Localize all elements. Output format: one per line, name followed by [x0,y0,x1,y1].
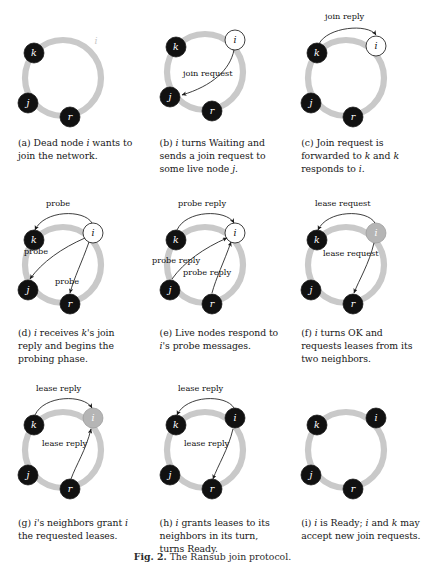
node-k-label: k [314,234,320,245]
panel-h: k j r i lease reply lease reply (h) i gr… [142,380,284,570]
node-k-label: k [31,234,37,245]
node-k-label: k [173,234,179,245]
message-label-lease-reply-k: lease reply [178,383,224,393]
node-i-label: i [233,227,236,238]
figure-caption-text: The Ransub join protocol. [170,551,292,562]
node-i-label: i [375,227,378,238]
node-r-label: r [68,111,73,122]
panel-i-caption: (i) i is Ready; i and k may accept new j… [301,516,421,542]
figure-ransub-join-protocol: k j r i (a) Dead node i wants to join th… [0,0,425,570]
panel-h-caption: (h) i grants leases to its neighbors in … [160,516,280,556]
panel-b-caption: (b) i turns Waiting and sends a join req… [160,136,280,176]
node-i-label: i [91,412,94,423]
node-r-label: r [209,298,214,309]
node-i-label: i [375,40,378,51]
panel-d-diagram: k j r i probe probe probe [0,190,142,330]
node-i-label: i [375,412,378,423]
message-label-lease-reply-k: lease reply [36,383,82,393]
node-r-label: r [209,483,214,494]
panel-e: k j r i probe reply probe reply probe re… [142,190,284,380]
node-i-label: i [233,34,236,45]
node-i-label: i [91,227,94,238]
panel-e-caption: (e) Live nodes respond to i's probe mess… [160,326,280,352]
node-k-label: k [314,47,320,58]
panel-b-diagram: k j r i join request [142,0,284,140]
panel-g-diagram: k j r i lease reply lease reply [0,380,142,520]
panel-a-diagram: k j r i [0,0,142,140]
node-r-label: r [68,483,73,494]
panel-c-diagram: k j r i join reply [283,0,425,140]
panel-h-diagram: k j r i lease reply lease reply [142,380,284,520]
panel-a-caption: (a) Dead node i wants to join the networ… [18,136,138,162]
node-r-label: r [351,298,356,309]
node-i-label: i [233,412,236,423]
panel-i-diagram: k j r i [283,380,425,520]
panel-f-diagram: k j r i lease request lease request [283,190,425,330]
message-label-probe-reply-r: probe reply [183,267,231,277]
node-k-label: k [31,47,37,58]
node-r-label: r [351,483,356,494]
message-arrow-lease-reply-r [71,429,91,479]
message-label-probe-j: probe [24,246,48,256]
message-label-join-reply: join reply [324,11,365,21]
message-label-probe-reply-k: probe reply [178,198,226,208]
node-k-label: k [31,419,37,430]
panel-f: k j r i lease request lease request (f) … [283,190,425,380]
panel-i: k j r i (i) i is Ready; i and k may acce… [283,380,425,570]
panel-d-caption: (d) i receives k's join reply and begins… [18,326,138,366]
message-label-probe-reply-j: probe reply [152,255,200,265]
message-label-lease-request-k: lease request [315,198,371,208]
node-k-label: k [314,419,320,430]
message-label-probe-r: probe [55,276,79,286]
panel-g: k j r i lease reply lease reply (g) i's … [0,380,142,570]
panel-a: k j r i (a) Dead node i wants to join th… [0,0,142,190]
message-label-join-request: join request [182,68,233,78]
panel-c-caption: (c) Join request is forwarded to k and k… [301,136,421,176]
panel-e-diagram: k j r i probe reply probe reply probe re… [142,190,284,330]
message-arrow-lease-reply-r [213,429,233,479]
panel-b: k j r i join request (b) i turns Waiting… [142,0,284,190]
message-label-lease-request-r: lease request [323,248,379,258]
node-k-label: k [173,41,179,52]
message-label-lease-reply-r: lease reply [42,438,88,448]
figure-caption: Fig. 2. The Ransub join protocol. [0,551,425,562]
message-label-lease-reply-r: lease reply [184,438,230,448]
node-r-label: r [68,298,73,309]
node-i-ghost-label: i [94,35,97,46]
panel-f-caption: (f) i turns OK and requests leases from … [301,326,421,366]
figure-number: Fig. 2. [134,551,167,562]
node-r-label: r [209,105,214,116]
panel-c: k j r i join reply (c) Join request is f… [283,0,425,190]
panel-g-caption: (g) i's neighbors grant i the requested … [18,516,138,542]
node-k-label: k [173,419,179,430]
panel-d: k j r i probe probe probe (d) i receives… [0,190,142,380]
node-r-label: r [351,111,356,122]
panel-grid: k j r i (a) Dead node i wants to join th… [0,0,425,570]
message-label-probe-k: probe [46,198,70,208]
